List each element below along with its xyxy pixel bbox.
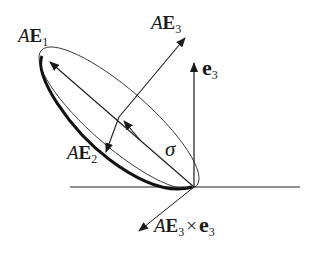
sigma-mid-arrow <box>124 121 140 140</box>
label-cross-product: AE3×e3 <box>154 214 215 238</box>
ae2-arrow <box>106 117 119 152</box>
ae3-arrow <box>119 38 185 117</box>
label-ae3: AE3 <box>151 13 181 35</box>
diagram-canvas: AE1 AE3 e3 AE2 σ AE3×e3 <box>0 0 316 253</box>
label-ae1: AE1 <box>18 26 48 48</box>
label-e3: e3 <box>202 57 218 81</box>
label-ae2: AE2 <box>67 143 97 165</box>
label-sigma: σ <box>165 139 175 160</box>
